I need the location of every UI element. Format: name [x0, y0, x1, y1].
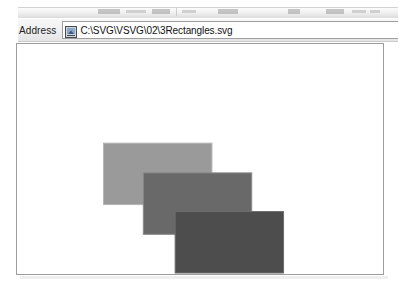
toolbar-icon-back[interactable] [98, 9, 120, 14]
toolbar-icon-refresh[interactable] [182, 10, 196, 13]
toolbar-icon-history[interactable] [352, 10, 366, 13]
address-input[interactable]: C:\SVG\VSVG\02\3Rectangles.svg [62, 21, 398, 39]
document-canvas-frame [16, 43, 384, 275]
svg-document [17, 44, 383, 274]
svg-file-icon [65, 24, 77, 36]
browser-toolbar [0, 0, 399, 18]
address-path-text: C:\SVG\VSVG\02\3Rectangles.svg [80, 25, 232, 36]
toolbar-icon-mail[interactable] [370, 10, 380, 13]
toolbar-icon-stop[interactable] [152, 9, 170, 14]
address-label: Address [18, 25, 56, 36]
rectangle-3[interactable] [175, 212, 283, 273]
toolbar-icon-home[interactable] [218, 9, 238, 14]
toolbar-icon-favorites[interactable] [326, 9, 344, 14]
toolbar-icon-search[interactable] [288, 9, 300, 14]
window-bottom-shadow [20, 276, 388, 279]
address-bar: Address C:\SVG\VSVG\02\3Rectangles.svg [18, 19, 398, 42]
toolbar-separator-1 [176, 8, 177, 16]
toolbar-icon-forward[interactable] [126, 10, 146, 13]
